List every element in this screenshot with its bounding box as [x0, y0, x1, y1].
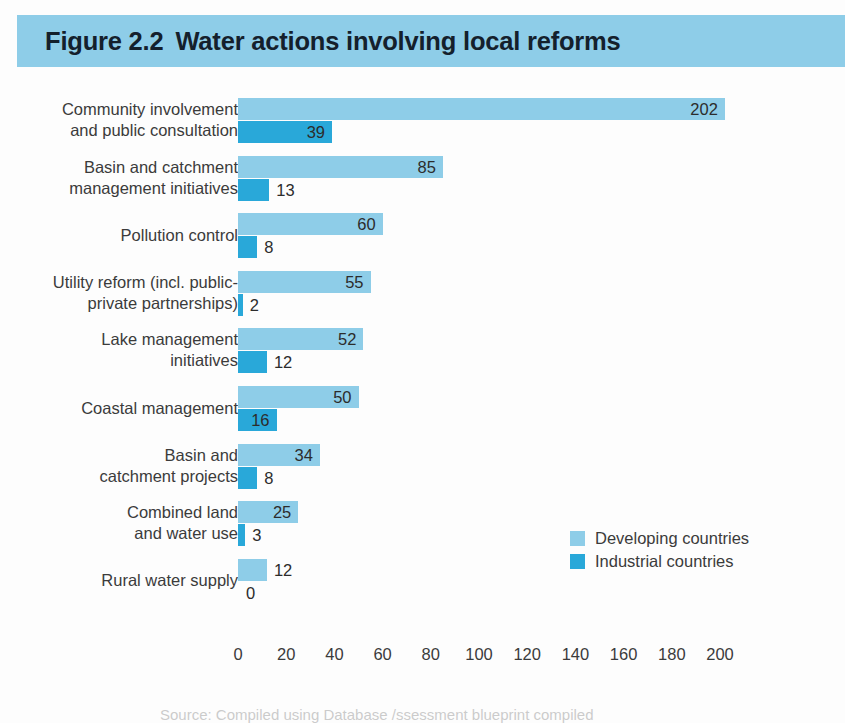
bar-group-item: 12 [238, 351, 267, 373]
legend-label: Industrial countries [595, 552, 734, 571]
bar-value-label: 13 [276, 179, 294, 201]
bar-chart: Community involvement and public consult… [0, 0, 845, 723]
category-label: Basin and catchment management initiativ… [0, 157, 238, 199]
bar-value-label: 25 [273, 501, 291, 523]
bar-group-item: 60 [238, 213, 383, 235]
bar-industrial [238, 294, 243, 316]
category-label: Coastal management [0, 398, 238, 419]
bar-group-item: 12 [238, 559, 267, 581]
bar-industrial [238, 524, 245, 546]
x-axis: 020406080100120140160180200 [0, 645, 845, 669]
legend-item: Developing countries [570, 527, 749, 550]
bar-group-item: 55 [238, 271, 371, 293]
bar-group-item: 8 [238, 236, 257, 258]
category-label: Pollution control [0, 225, 238, 246]
bar-value-label: 34 [295, 444, 313, 466]
legend-item: Industrial countries [570, 550, 749, 573]
x-axis-tick-label: 60 [373, 645, 391, 664]
bar-group-item: 50 [238, 386, 359, 408]
x-axis-tick-label: 120 [513, 645, 541, 664]
bar-value-label: 39 [307, 121, 325, 143]
x-axis-tick-label: 20 [277, 645, 295, 664]
bar-group-item: 25 [238, 501, 298, 523]
x-axis-tick-label: 0 [233, 645, 242, 664]
bar-group-item: 52 [238, 328, 363, 350]
bar-group-item: 3 [238, 524, 245, 546]
bar-developing [238, 156, 443, 178]
bar-group-item: 39 [238, 121, 332, 143]
bar-developing [238, 98, 725, 120]
bar-value-label: 8 [264, 467, 273, 489]
bar-value-label: 12 [274, 351, 292, 373]
legend-swatch-developing [570, 531, 585, 546]
source-note: Source: Compiled using Database /ssessme… [160, 706, 594, 723]
category-label: Basin and catchment projects [0, 445, 238, 487]
x-axis-tick-label: 180 [658, 645, 686, 664]
bar-value-label: 3 [252, 524, 261, 546]
x-axis-tick-label: 160 [610, 645, 638, 664]
bar-value-label: 52 [338, 328, 356, 350]
bar-value-label: 50 [333, 386, 351, 408]
bar-group-item: 13 [238, 179, 269, 201]
category-label: Community involvement and public consult… [0, 99, 238, 141]
x-axis-tick-label: 40 [325, 645, 343, 664]
category-label: Lake management initiatives [0, 329, 238, 371]
bar-value-label: 60 [357, 213, 375, 235]
legend-label: Developing countries [595, 529, 749, 548]
bar-group-item: 2 [238, 294, 243, 316]
bar-industrial [238, 467, 257, 489]
bar-group-item: 16 [238, 409, 277, 431]
bar-industrial [238, 236, 257, 258]
bar-group-item: 0 [238, 582, 239, 604]
bar-developing [238, 559, 267, 581]
bar-group-item: 34 [238, 444, 320, 466]
bar-group-item: 202 [238, 98, 725, 120]
bar-value-label: 0 [246, 582, 255, 604]
x-axis-tick-label: 140 [562, 645, 590, 664]
bar-group-item: 8 [238, 467, 257, 489]
bar-value-label: 12 [274, 559, 292, 581]
x-axis-tick-label: 80 [422, 645, 440, 664]
x-axis-tick-label: 100 [465, 645, 493, 664]
legend-swatch-industrial [570, 554, 585, 569]
bar-value-label: 8 [264, 236, 273, 258]
category-label: Combined land and water use [0, 502, 238, 544]
x-axis-tick-label: 200 [706, 645, 734, 664]
bar-group-item: 85 [238, 156, 443, 178]
bar-value-label: 2 [250, 294, 259, 316]
bar-value-label: 16 [251, 409, 269, 431]
bar-value-label: 85 [417, 156, 435, 178]
bar-industrial [238, 351, 267, 373]
category-label: Utility reform (incl. public- private pa… [0, 272, 238, 314]
bar-value-label: 55 [345, 271, 363, 293]
chart-legend: Developing countriesIndustrial countries [570, 527, 749, 573]
bar-industrial [238, 179, 269, 201]
bar-value-label: 202 [690, 98, 718, 120]
category-label: Rural water supply [0, 570, 238, 591]
